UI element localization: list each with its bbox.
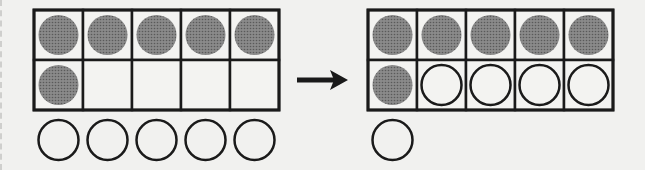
filled-counter (569, 15, 609, 55)
loose-counter (39, 120, 79, 160)
ten-frame-cell (181, 60, 230, 110)
filled-counter (373, 15, 413, 55)
loose-counter (186, 120, 226, 160)
ten-frame-cell (83, 60, 132, 110)
ten-frame-cell (132, 60, 181, 110)
filled-counter (373, 65, 413, 105)
filled-counter (186, 15, 226, 55)
loose-counter (137, 120, 177, 160)
right-arrow-icon (297, 70, 348, 90)
filled-counter (422, 15, 462, 55)
ten-frame-diagram (0, 0, 645, 170)
filled-counter (235, 15, 275, 55)
ten-frame-cell (417, 60, 466, 110)
filled-counter (39, 15, 79, 55)
ten-frame-cell (466, 60, 515, 110)
right-ten-frame (368, 10, 613, 160)
ten-frame-cell (515, 60, 564, 110)
loose-counter (235, 120, 275, 160)
loose-counter (88, 120, 128, 160)
left-ten-frame (34, 10, 279, 160)
ten-frame-cell (230, 60, 279, 110)
filled-counter (471, 15, 511, 55)
filled-counter (137, 15, 177, 55)
filled-counter (39, 65, 79, 105)
loose-counter (373, 120, 413, 160)
ten-frame-cell (564, 60, 613, 110)
filled-counter (520, 15, 560, 55)
filled-counter (88, 15, 128, 55)
